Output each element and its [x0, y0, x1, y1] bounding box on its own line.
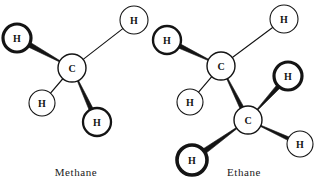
atom-label: H [38, 98, 46, 109]
bond-e-c2-e-h5 [201, 127, 238, 155]
bond-m-c1-m-h4 [77, 79, 94, 111]
atom-c-e-c1: C [207, 52, 235, 80]
atom-h-e-h2: H [270, 5, 298, 33]
figure-root: CHHHHCCHHHHHH Methane Ethane [0, 0, 321, 189]
atom-label: C [68, 63, 75, 74]
atom-h-m-h2: H [120, 6, 148, 34]
caption-ethane: Ethane [168, 166, 320, 178]
atom-h-e-h4: H [274, 62, 302, 90]
atom-h-e-h6: H [287, 131, 313, 157]
atom-label: C [217, 61, 224, 72]
atom-label: C [244, 115, 251, 126]
bond-e-c1-e-h2 [231, 26, 274, 58]
caption-methane: Methane [0, 166, 152, 178]
atom-h-e-h1: H [153, 26, 181, 54]
bond-m-c1-m-h2 [82, 28, 124, 61]
atom-label: H [296, 139, 304, 150]
bond-e-c1-e-c2 [226, 77, 244, 110]
atom-label: H [13, 33, 21, 44]
atom-label: H [163, 35, 171, 46]
atom-label: H [284, 71, 292, 82]
bond-e-c1-e-h3 [198, 75, 213, 93]
bond-e-c1-e-h1 [177, 43, 210, 61]
atom-label: H [188, 155, 196, 166]
atom-label: H [130, 15, 138, 26]
atom-c-m-c1: C [58, 54, 86, 82]
atom-h-m-h4: H [83, 108, 111, 136]
atom-label: H [186, 97, 194, 108]
atom-h-e-h3: H [177, 89, 203, 115]
atom-h-m-h3: H [29, 90, 55, 116]
bond-m-c1-m-h3 [49, 77, 63, 94]
bond-m-c1-m-h1 [27, 42, 62, 63]
bond-e-c2-e-h4 [256, 84, 281, 111]
molecule-diagram-canvas: CHHHHCCHHHHHH [0, 0, 321, 189]
atom-h-m-h1: H [3, 24, 31, 52]
atom-label: H [280, 14, 288, 25]
atoms-layer: CHHHHCCHHHHHH [3, 5, 313, 175]
atom-c-e-c2: C [234, 106, 262, 134]
atoms-methane: CHHHH [3, 6, 148, 136]
bond-e-c2-e-h6 [259, 125, 290, 141]
atom-label: H [93, 117, 101, 128]
